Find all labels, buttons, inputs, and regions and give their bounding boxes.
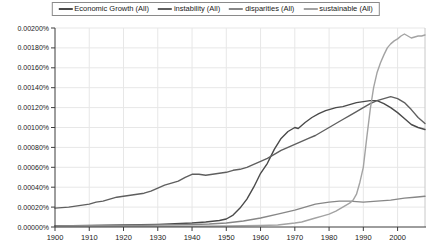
legend-label: disparities (All) xyxy=(245,5,294,13)
plot-area: 0.00000%0.00020%0.00040%0.00060%0.00080%… xyxy=(0,0,431,248)
legend-item: Economic Growth (All) xyxy=(58,5,149,13)
x-tick-label: 1920 xyxy=(115,233,132,242)
y-tick-label: 0.00080% xyxy=(17,144,49,151)
x-tick-label: 1900 xyxy=(47,233,64,242)
x-tick-label: 1950 xyxy=(218,233,235,242)
x-tick-label: 2000 xyxy=(389,233,406,242)
y-tick-label: 0.00180% xyxy=(17,44,49,51)
x-tick-label: 1910 xyxy=(81,233,98,242)
y-tick-label: 0.00100% xyxy=(17,124,49,131)
x-tick-label: 1970 xyxy=(286,233,303,242)
legend-label: sustainable (All) xyxy=(319,5,372,13)
legend-line-swatch xyxy=(58,8,72,10)
legend-item: sustainable (All) xyxy=(303,5,372,13)
legend-item: disparities (All) xyxy=(229,5,294,13)
x-tick-label: 1960 xyxy=(252,233,269,242)
y-tick-label: 0.00040% xyxy=(17,184,49,191)
y-tick-label: 0.00020% xyxy=(17,204,49,211)
legend-line-swatch xyxy=(229,8,243,10)
y-tick-label: 0.00140% xyxy=(17,84,49,91)
y-tick-label: 0.00120% xyxy=(17,104,49,111)
x-tick-label: 1990 xyxy=(355,233,372,242)
series-line xyxy=(55,34,425,227)
y-tick-label: 0.00200% xyxy=(17,25,49,32)
ngram-line-chart: 0.00000%0.00020%0.00040%0.00060%0.00080%… xyxy=(0,0,431,248)
x-tick-label: 1930 xyxy=(149,233,166,242)
x-tick-label: 1980 xyxy=(321,233,338,242)
chart-legend: Economic Growth (All)instability (All)di… xyxy=(51,2,379,16)
legend-label: instability (All) xyxy=(174,5,220,13)
legend-label: Economic Growth (All) xyxy=(74,5,149,13)
legend-item: instability (All) xyxy=(158,5,220,13)
x-tick-label: 1940 xyxy=(184,233,201,242)
y-tick-label: 0.00160% xyxy=(17,64,49,71)
legend-line-swatch xyxy=(303,8,317,10)
legend-line-swatch xyxy=(158,8,172,10)
y-tick-label: 0.00000% xyxy=(17,224,49,231)
y-tick-label: 0.00060% xyxy=(17,164,49,171)
series-line xyxy=(55,196,425,226)
